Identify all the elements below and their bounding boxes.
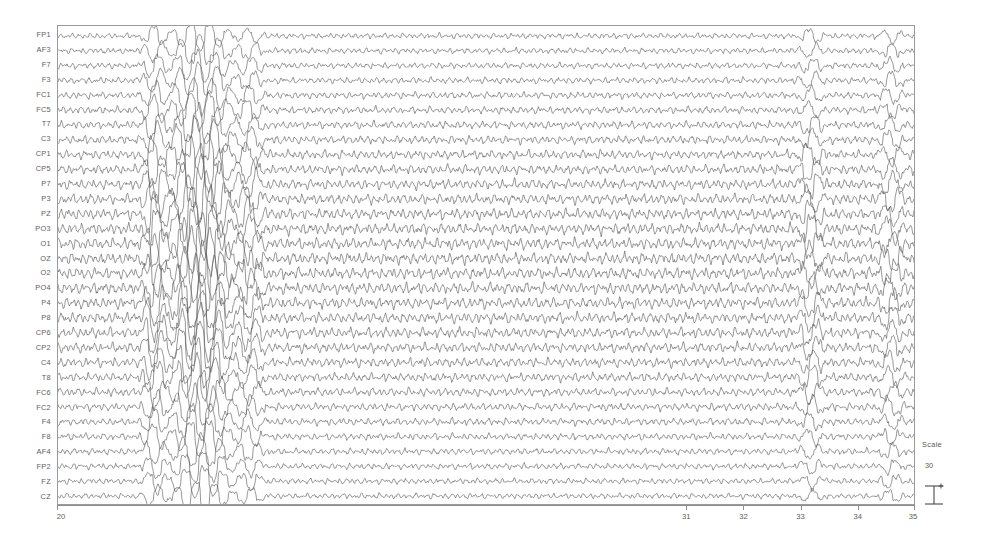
channel-label-fc6: FC6 bbox=[36, 389, 51, 396]
x-axis-tick-label: 32 bbox=[739, 512, 747, 521]
channel-label-f4: F4 bbox=[42, 419, 51, 426]
eeg-trace-fp2 bbox=[58, 452, 914, 482]
channel-label-f3: F3 bbox=[42, 76, 51, 83]
scale-legend-value: 30 bbox=[922, 461, 980, 470]
channel-label-cp5: CP5 bbox=[36, 165, 51, 172]
channel-label-o1: O1 bbox=[41, 240, 51, 247]
x-axis-tick-label: 34 bbox=[854, 512, 862, 521]
channel-label-f7: F7 bbox=[42, 61, 51, 68]
eeg-trace-o2 bbox=[58, 240, 914, 303]
eeg-trace-p7 bbox=[58, 153, 914, 207]
eeg-trace-fc2 bbox=[58, 383, 914, 426]
channel-label-po3: PO3 bbox=[35, 225, 51, 232]
x-axis-tick bbox=[743, 505, 744, 510]
x-axis-tick bbox=[686, 505, 687, 510]
channel-label-p3: P3 bbox=[41, 195, 51, 202]
eeg-trace-pz bbox=[58, 185, 914, 247]
channel-label-cp2: CP2 bbox=[36, 344, 51, 351]
eeg-trace-canvas bbox=[58, 26, 914, 504]
channel-label-oz: OZ bbox=[40, 255, 51, 262]
eeg-trace-f7 bbox=[58, 49, 914, 82]
i-beam-scale-bar-icon bbox=[922, 481, 948, 507]
eeg-trace-fp1 bbox=[58, 26, 914, 51]
eeg-trace-p3 bbox=[58, 170, 914, 225]
eeg-trace-af3 bbox=[58, 35, 914, 65]
channel-label-cz: CZ bbox=[41, 493, 51, 500]
eeg-trace-cz bbox=[58, 482, 914, 504]
channel-label-af3: AF3 bbox=[37, 46, 51, 53]
eeg-trace-po4 bbox=[58, 253, 914, 316]
channel-label-c4: C4 bbox=[41, 359, 51, 366]
eeg-trace-cp5 bbox=[58, 143, 914, 193]
x-axis-tick bbox=[858, 505, 859, 510]
channel-label-fc1: FC1 bbox=[36, 91, 51, 98]
x-axis-tick-label: 35 bbox=[909, 512, 917, 521]
channel-label-fc5: FC5 bbox=[36, 106, 51, 113]
eeg-trace-f8 bbox=[58, 421, 914, 457]
eeg-plot-frame[interactable] bbox=[57, 25, 915, 505]
scale-legend: Scale 30 bbox=[922, 440, 980, 520]
eeg-viewer: FP1AF3F7F3FC1FC5T7C3CP1CP5P7P3PZPO3O1OZO… bbox=[0, 0, 983, 544]
channel-label-t8: T8 bbox=[42, 374, 51, 381]
x-axis-line bbox=[57, 505, 915, 506]
scale-legend-title: Scale bbox=[922, 440, 980, 449]
x-axis-tick-label: 33 bbox=[796, 512, 804, 521]
channel-label-af4: AF4 bbox=[37, 449, 51, 456]
x-axis-tick bbox=[801, 505, 802, 510]
channel-label-p7: P7 bbox=[41, 180, 51, 187]
channel-label-c3: C3 bbox=[41, 136, 51, 143]
channel-label-po4: PO4 bbox=[35, 285, 51, 292]
channel-label-f8: F8 bbox=[42, 434, 51, 441]
eeg-trace-fz bbox=[58, 466, 914, 498]
x-axis: 203132333435 bbox=[57, 505, 915, 539]
channel-label-o2: O2 bbox=[41, 270, 51, 277]
channel-label-p4: P4 bbox=[41, 300, 51, 307]
x-axis-tick-label: 31 bbox=[682, 512, 690, 521]
eeg-trace-cp1 bbox=[58, 133, 914, 180]
channel-label-fp2: FP2 bbox=[37, 463, 51, 470]
x-axis-tick-label: 20 bbox=[57, 512, 65, 521]
x-axis-tick bbox=[57, 505, 58, 510]
eeg-trace-o1 bbox=[58, 212, 914, 276]
channel-label-t7: T7 bbox=[42, 121, 51, 128]
channel-label-fc2: FC2 bbox=[36, 404, 51, 411]
channel-label-fz: FZ bbox=[41, 478, 51, 485]
channel-label-cp1: CP1 bbox=[36, 151, 51, 158]
channel-label-p8: P8 bbox=[41, 314, 51, 321]
eeg-trace-cp6 bbox=[58, 302, 914, 362]
channel-label-column: FP1AF3F7F3FC1FC5T7C3CP1CP5P7P3PZPO3O1OZO… bbox=[0, 25, 55, 505]
channel-label-cp6: CP6 bbox=[36, 329, 51, 336]
x-axis-tick bbox=[914, 505, 915, 510]
channel-label-fp1: FP1 bbox=[37, 31, 51, 38]
channel-label-pz: PZ bbox=[41, 210, 51, 217]
